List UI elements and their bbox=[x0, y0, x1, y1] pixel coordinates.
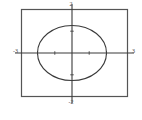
x-axis-min-label: -3 bbox=[2, 48, 18, 54]
x-axis-max-label: 3 bbox=[132, 48, 142, 54]
y-axis-max-label: 2 bbox=[0, 1, 142, 7]
y-axis-min-label: -2 bbox=[0, 99, 142, 105]
ellipse-plot-figure: 2 -2 -3 3 bbox=[0, 0, 142, 120]
